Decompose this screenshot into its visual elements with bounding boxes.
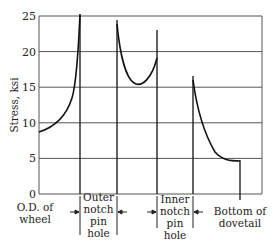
- y-tick-0: 0: [29, 188, 36, 201]
- y-tick-20: 20: [22, 46, 36, 59]
- label-dovetail-2: dovetail: [219, 217, 262, 229]
- stress-chart: 25 20 15 10 5 0 Stress, ksi O.D. of whee…: [0, 0, 273, 246]
- region-labels: O.D. of wheel Outer notch pin hole Inner…: [17, 191, 267, 241]
- y-tick-15: 15: [22, 81, 36, 94]
- y-axis-label: Stress, ksi: [8, 77, 20, 133]
- y-tick-5: 5: [29, 152, 36, 165]
- region-dividers: [80, 16, 240, 200]
- label-outer-2: notch: [84, 203, 114, 215]
- label-inner-2: notch: [160, 205, 190, 217]
- label-od-2: wheel: [19, 213, 51, 225]
- y-ticks: 25 20 15 10 5 0: [22, 10, 36, 201]
- y-tick-25: 25: [22, 10, 36, 23]
- label-outer-4: hole: [87, 227, 110, 239]
- label-outer-3: pin: [90, 215, 107, 227]
- grid: [39, 16, 262, 194]
- label-inner-3: pin: [167, 217, 184, 229]
- label-od-1: O.D. of: [17, 201, 54, 213]
- label-outer-1: Outer: [83, 191, 115, 203]
- label-dovetail-1: Bottom of: [214, 205, 267, 217]
- label-inner-4: hole: [164, 229, 187, 241]
- label-inner-1: Inner: [161, 193, 191, 205]
- y-tick-10: 10: [22, 117, 36, 130]
